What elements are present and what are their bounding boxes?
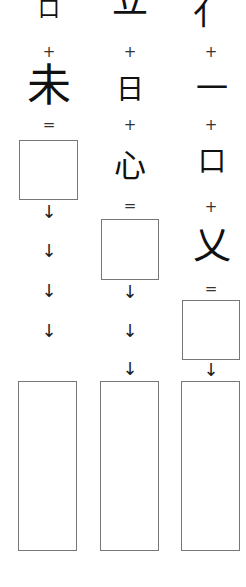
plus-operator: +	[119, 118, 141, 133]
down-arrow-icon: ↓	[38, 242, 60, 260]
part-kanji: 未	[22, 64, 76, 108]
part-kanji: 日	[112, 76, 148, 104]
plus-operator: +	[200, 45, 222, 60]
part-kanji: 立	[104, 0, 156, 18]
down-arrow-icon: ↓	[38, 203, 60, 221]
plus-operator: +	[200, 200, 222, 215]
equals-operator: =	[38, 118, 60, 133]
down-arrow-icon: ↓	[119, 283, 141, 301]
answer-box-small[interactable]	[101, 219, 159, 280]
down-arrow-icon: ↓	[38, 322, 60, 340]
down-arrow-icon: ↓	[200, 361, 222, 379]
answer-box-tall[interactable]	[181, 381, 240, 551]
answer-box-small[interactable]	[182, 300, 240, 360]
part-kanji: 一	[192, 72, 232, 104]
plus-operator: +	[200, 118, 222, 133]
down-arrow-icon: ↓	[38, 282, 60, 300]
answer-box-small[interactable]	[19, 140, 78, 200]
answer-box-tall[interactable]	[18, 381, 77, 551]
answer-box-tall[interactable]	[100, 381, 159, 551]
plus-operator: +	[38, 45, 60, 60]
part-kanji: 口	[30, 0, 68, 20]
part-kanji: 亻	[192, 0, 228, 30]
part-kanji: 乂	[190, 226, 234, 264]
down-arrow-icon: ↓	[119, 322, 141, 340]
part-kanji: 心	[104, 150, 156, 182]
part-kanji: 口	[194, 148, 230, 176]
plus-operator: +	[119, 45, 141, 60]
equals-operator: =	[119, 199, 141, 214]
down-arrow-icon: ↓	[119, 360, 141, 378]
equals-operator: =	[200, 282, 222, 297]
